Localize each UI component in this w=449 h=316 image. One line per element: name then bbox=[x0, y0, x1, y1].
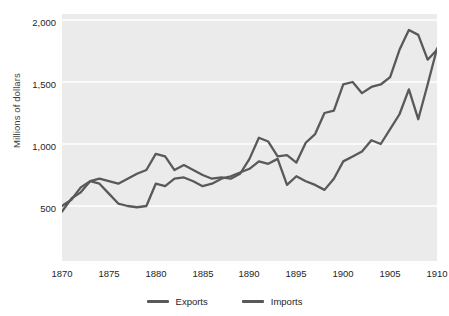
x-tick-1905: 1905 bbox=[370, 268, 410, 279]
y-tick-2000: 2,000 bbox=[16, 17, 56, 28]
line-series-exports bbox=[62, 30, 437, 212]
plot-area bbox=[62, 14, 437, 261]
chart-legend: Exports Imports bbox=[0, 296, 449, 307]
x-tick-1880: 1880 bbox=[136, 268, 176, 279]
x-tick-1900: 1900 bbox=[323, 268, 363, 279]
x-axis-tick-labels: 1870 1875 1880 1885 1890 1895 1900 1905 … bbox=[0, 268, 449, 284]
legend-item-imports: Imports bbox=[242, 296, 303, 307]
legend-swatch-imports bbox=[242, 300, 264, 303]
legend-label-exports: Exports bbox=[176, 296, 208, 307]
x-tick-1910: 1910 bbox=[417, 268, 449, 279]
x-tick-1875: 1875 bbox=[89, 268, 129, 279]
y-tick-500: 500 bbox=[16, 203, 56, 214]
x-tick-1895: 1895 bbox=[276, 268, 316, 279]
legend-item-exports: Exports bbox=[147, 296, 208, 307]
y-tick-1500: 1,500 bbox=[16, 79, 56, 90]
x-tick-1885: 1885 bbox=[183, 268, 223, 279]
y-tick-1000: 1,000 bbox=[16, 141, 56, 152]
chart-figure: Millions of dollars 500 1,000 1,500 2,00… bbox=[0, 0, 449, 316]
x-tick-1890: 1890 bbox=[229, 268, 269, 279]
x-tick-1870: 1870 bbox=[42, 268, 82, 279]
legend-label-imports: Imports bbox=[271, 296, 303, 307]
gridlines bbox=[62, 20, 437, 206]
legend-swatch-exports bbox=[147, 300, 169, 303]
